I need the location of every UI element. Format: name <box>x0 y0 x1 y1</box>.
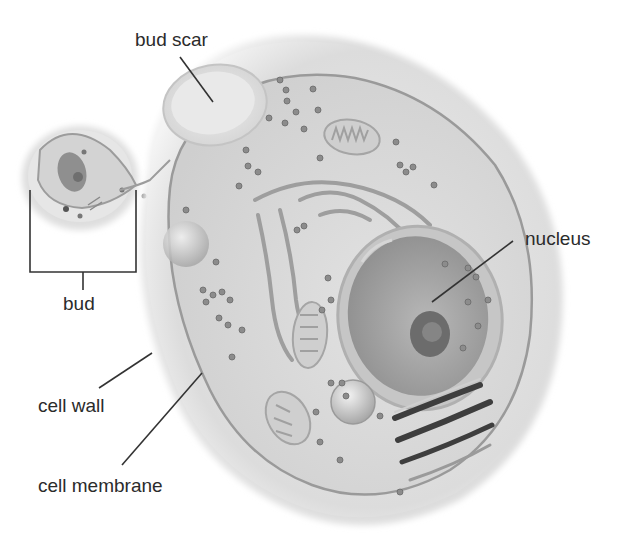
bud-cell <box>22 126 147 230</box>
label-cell-membrane: cell membrane <box>38 476 163 495</box>
label-nucleus: nucleus <box>525 229 591 248</box>
yeast-cell-diagram <box>0 0 624 549</box>
label-cell-wall: cell wall <box>38 396 105 415</box>
label-bud-scar: bud scar <box>135 30 208 49</box>
label-bud: bud <box>63 294 95 313</box>
cell-wall-leader-line <box>99 353 152 388</box>
